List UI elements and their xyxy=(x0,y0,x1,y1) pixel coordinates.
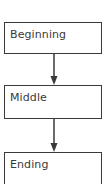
arrowhead-icon xyxy=(51,143,58,152)
node-label: Beginning xyxy=(10,28,66,41)
arrow-beginning-to-middle xyxy=(51,53,58,85)
node-beginning: Beginning xyxy=(4,22,102,54)
node-label: Ending xyxy=(10,158,49,171)
node-ending: Ending xyxy=(4,152,102,184)
node-middle: Middle xyxy=(4,85,102,119)
arrowhead-icon xyxy=(51,76,58,85)
arrow-middle-to-ending xyxy=(51,118,58,152)
node-label: Middle xyxy=(10,91,47,104)
